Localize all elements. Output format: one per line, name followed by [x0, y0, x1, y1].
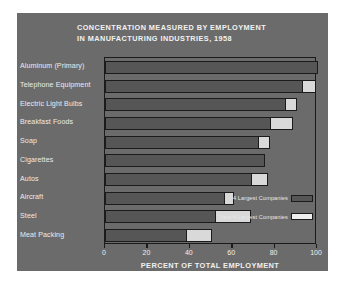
x-axis-tick [231, 244, 232, 248]
x-axis-tick-label: 80 [270, 249, 278, 256]
category-label-text: Autos [20, 175, 106, 183]
bar-row [105, 61, 315, 74]
x-axis-tick-label: 60 [227, 249, 235, 256]
x-axis-tick-label: 20 [142, 249, 150, 256]
chart-figure: CONCENTRATION MEASURED BY EMPLOYMENT IN … [0, 0, 345, 284]
category-label-text: Telephone Equipment [20, 81, 106, 89]
bar-segment [105, 98, 287, 111]
bar-segment [251, 173, 267, 186]
category-label: Meat Packing [20, 228, 106, 241]
bar-segment [186, 229, 213, 242]
x-axis-tick [146, 244, 147, 248]
x-axis-tick [104, 244, 105, 248]
category-label-text: Cigarettes [20, 156, 106, 164]
category-label: Aircraft [20, 191, 106, 204]
legend-swatch-4-largest [291, 195, 313, 202]
category-label-text: Steel [20, 212, 106, 220]
category-label: Autos [20, 172, 106, 185]
bar-segment [105, 80, 304, 93]
category-label: Telephone Equipment [20, 79, 106, 92]
category-label-text: Aircraft [20, 193, 106, 201]
bar-row [105, 173, 315, 186]
plot-area: 4 Largest Companies Next 4 Largest Compa… [104, 57, 316, 244]
chart-title: CONCENTRATION MEASURED BY EMPLOYMENT IN … [77, 23, 317, 44]
bar-segment [105, 61, 318, 74]
bar-segment [105, 229, 187, 242]
x-axis-tick-label: 0 [102, 249, 106, 256]
bar-segment [105, 210, 217, 223]
legend-swatch-next-4-largest [291, 213, 313, 220]
bar-row [105, 117, 315, 130]
category-label: Aluminum (Primary) [20, 60, 106, 73]
category-label: Electric Light Bulbs [20, 97, 106, 110]
legend-item-4-largest: 4 Largest Companies [232, 195, 313, 202]
category-label-text: Aluminum (Primary) [20, 62, 106, 70]
category-label-text: Meat Packing [20, 231, 106, 239]
bar-segment [285, 98, 297, 111]
bar-segment [105, 154, 265, 167]
bar-segment [105, 136, 259, 149]
legend-item-next-4-largest: Next 4 Largest Companies [232, 213, 313, 220]
x-axis-tick [274, 244, 275, 248]
x-axis-tick [316, 244, 317, 248]
x-axis-label: PERCENT OF TOTAL EMPLOYMENT [104, 261, 316, 270]
x-axis-tick-label: 40 [185, 249, 193, 256]
bar-row [105, 229, 315, 242]
legend-label-4-largest: 4 Largest Companies [233, 195, 288, 201]
chart-title-line-2: IN MANUFACTURING INDUSTRIES, 1958 [77, 34, 317, 45]
legend-label-next-4-largest: Next 4 Largest Companies [219, 214, 288, 220]
bar-row [105, 136, 315, 149]
bar-segment [302, 80, 316, 93]
category-label: Steel [20, 209, 106, 222]
category-axis: Aluminum (Primary)Telephone EquipmentEle… [16, 57, 102, 244]
bar-row [105, 80, 315, 93]
category-label-text: Electric Light Bulbs [20, 100, 106, 108]
x-axis-tick [189, 244, 190, 248]
category-label: Cigarettes [20, 153, 106, 166]
bar-segment [105, 192, 225, 205]
bar-row [105, 154, 315, 167]
category-label: Soap [20, 135, 106, 148]
bar-row [105, 98, 315, 111]
bar-segment [270, 117, 293, 130]
category-label: Breakfast Foods [20, 116, 106, 129]
category-label-text: Breakfast Foods [20, 118, 106, 126]
chart-title-line-1: CONCENTRATION MEASURED BY EMPLOYMENT [77, 23, 317, 34]
bar-segment [258, 136, 270, 149]
bar-segment [105, 117, 272, 130]
x-axis-tick-label: 100 [310, 249, 322, 256]
chart-panel: CONCENTRATION MEASURED BY EMPLOYMENT IN … [17, 13, 328, 271]
category-label-text: Soap [20, 137, 106, 145]
bar-segment [105, 173, 253, 186]
